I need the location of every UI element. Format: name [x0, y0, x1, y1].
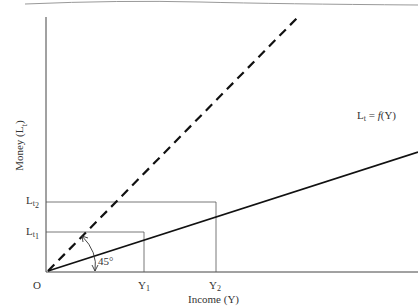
y-axis-label: Money (Lt) — [13, 111, 28, 181]
y2-tick-label: Y2 — [209, 280, 221, 293]
x-axis-label: Income (Y) — [188, 294, 239, 305]
lt-function-line — [48, 152, 418, 271]
lt1-tick-label: Lt1 — [26, 226, 39, 241]
lt2-tick-label: Lt2 — [26, 195, 39, 210]
function-label: Lt = f(Y) — [357, 110, 396, 123]
reference-45-line — [48, 15, 300, 271]
chart-canvas — [0, 0, 418, 307]
angle-label: 45° — [98, 256, 113, 267]
angle-arc — [82, 236, 95, 271]
y1-tick-label: Y1 — [138, 280, 150, 293]
page-edge — [25, 1, 418, 5]
origin-label: O — [33, 280, 41, 291]
